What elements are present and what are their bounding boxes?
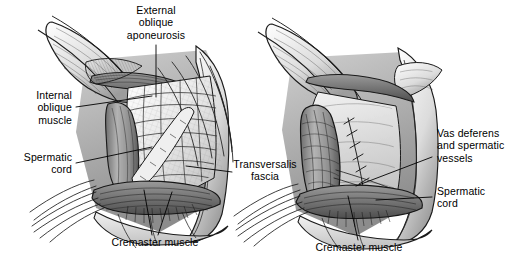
label-internal-oblique-muscle: Internal oblique muscle — [2, 89, 72, 126]
label-external-oblique-aponeurosis: External oblique aponeurosis — [116, 4, 196, 41]
label-vas-deferens-and-spermatic-vessels: Vas deferens and spermatic vessels — [437, 127, 515, 164]
label-cremaster-muscle-left: Cremaster muscle — [104, 236, 206, 248]
label-spermatic-cord-right: Spermatic cord — [437, 185, 507, 210]
label-spermatic-cord-left: Spermatic cord — [2, 151, 72, 176]
anatomical-figure: External oblique aponeurosis Internal ob… — [0, 0, 515, 265]
label-transversalis-fascia: Transversalis fascia — [232, 158, 298, 183]
label-cremaster-muscle-right: Cremaster muscle — [308, 241, 410, 253]
